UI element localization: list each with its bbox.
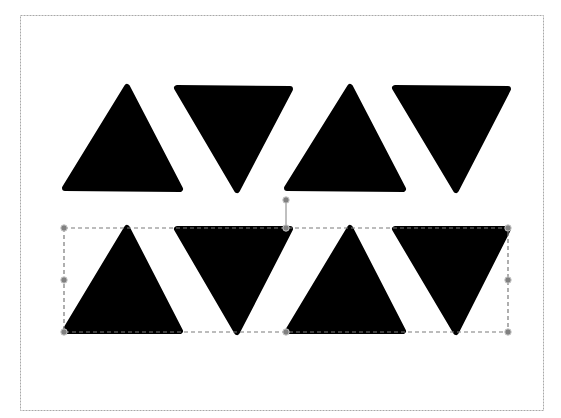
triangle-up-row2-3[interactable] bbox=[288, 228, 403, 331]
resize-handle-bottom-left[interactable] bbox=[61, 329, 67, 335]
resize-handle-middle-right[interactable] bbox=[505, 277, 511, 283]
triangle-down-row1-2[interactable] bbox=[177, 88, 290, 190]
page-frame bbox=[21, 16, 544, 411]
triangle-down-row1-4[interactable] bbox=[395, 88, 508, 190]
resize-handle-top-left[interactable] bbox=[61, 225, 67, 231]
resize-handle-bottom-middle[interactable] bbox=[283, 329, 289, 335]
rotation-handle[interactable] bbox=[283, 197, 289, 203]
resize-handle-middle-left[interactable] bbox=[61, 277, 67, 283]
resize-handle-bottom-right[interactable] bbox=[505, 329, 511, 335]
canvas-svg bbox=[0, 0, 561, 418]
triangle-down-row2-2[interactable] bbox=[177, 229, 290, 332]
triangle-down-row2-4[interactable] bbox=[395, 229, 508, 332]
drawing-canvas[interactable] bbox=[0, 0, 561, 418]
triangle-up-row2-1[interactable] bbox=[65, 228, 180, 331]
triangle-up-row1-1[interactable] bbox=[65, 87, 180, 189]
resize-handle-top-right[interactable] bbox=[505, 225, 511, 231]
resize-handle-top-middle[interactable] bbox=[283, 225, 289, 231]
triangle-up-row1-3[interactable] bbox=[287, 87, 403, 189]
